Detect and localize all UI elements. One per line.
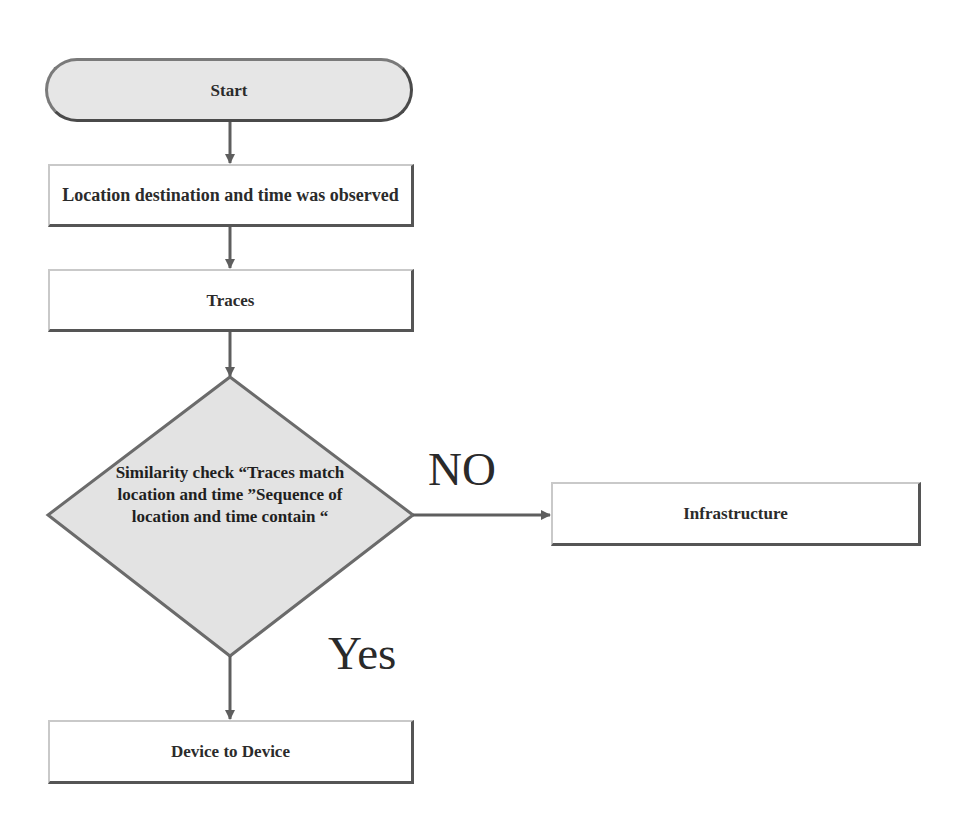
- decision-label: Similarity check “Traces match location …: [98, 462, 362, 528]
- location-observed-node: Location destination and time was observ…: [48, 164, 414, 227]
- infrastructure-node: Infrastructure: [551, 482, 921, 546]
- device-to-device-label: Device to Device: [171, 740, 290, 763]
- location-observed-label: Location destination and time was observ…: [62, 184, 399, 207]
- traces-label: Traces: [207, 289, 255, 312]
- start-node-label: Start: [211, 79, 248, 102]
- yes-edge-label: Yes: [328, 630, 396, 677]
- flowchart-canvas: Start Location destination and time was …: [0, 0, 966, 819]
- flowchart-connectors: [0, 0, 966, 819]
- no-edge-label: NO: [428, 446, 496, 493]
- traces-node: Traces: [48, 269, 414, 332]
- infrastructure-label: Infrastructure: [683, 502, 788, 525]
- device-to-device-node: Device to Device: [48, 720, 414, 784]
- start-node: Start: [45, 58, 413, 122]
